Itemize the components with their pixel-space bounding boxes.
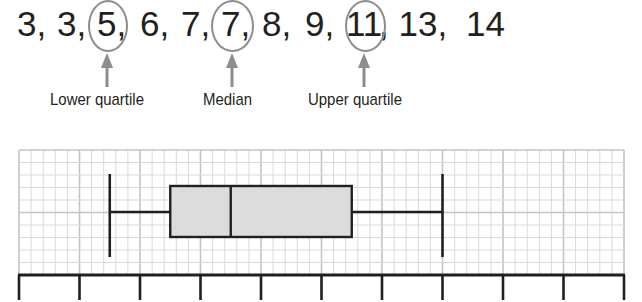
sequence-value: 9,	[305, 4, 334, 44]
sequence-value: 8,	[262, 4, 291, 44]
axis	[18, 275, 625, 300]
sequence-value: 3,	[57, 4, 86, 44]
box-and-whiskers	[110, 174, 443, 257]
box-plot	[0, 140, 642, 302]
sequence-value: 6,	[140, 4, 169, 44]
upper-quartile-circle	[345, 0, 386, 52]
annotation-label: Median	[203, 89, 252, 111]
sequence-value: , 13,	[379, 4, 447, 44]
sequence-value: 7,	[181, 4, 210, 44]
sequence-value: 14	[466, 4, 505, 44]
data-sequence: 3,3,5,6,7,7,8,9,11, 13,14	[0, 0, 642, 60]
arrow-up-icon	[356, 53, 372, 89]
median-circle	[211, 0, 254, 52]
annotation-label: Upper quartile	[308, 89, 402, 111]
arrow-up-icon	[224, 53, 240, 89]
annotation-label: Lower quartile	[50, 89, 144, 111]
lower-quartile-circle	[88, 0, 128, 52]
sequence-value: 3,	[17, 4, 46, 44]
arrow-up-icon	[99, 53, 115, 89]
